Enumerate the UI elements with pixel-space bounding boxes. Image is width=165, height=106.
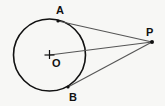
label-o: O bbox=[52, 57, 61, 69]
segment-po bbox=[50, 42, 153, 55]
label-p: P bbox=[146, 26, 153, 38]
segment-pb bbox=[68, 42, 152, 87]
point-a bbox=[56, 19, 59, 22]
point-b bbox=[66, 85, 69, 88]
label-a: A bbox=[56, 4, 64, 16]
label-b: B bbox=[69, 91, 77, 103]
segment-pa bbox=[58, 21, 152, 42]
point-p bbox=[150, 40, 154, 44]
tangent-circle-diagram: A B O P bbox=[0, 0, 165, 106]
